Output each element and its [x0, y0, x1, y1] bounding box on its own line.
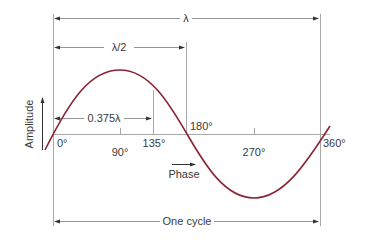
tick-label-135: 135°	[143, 137, 166, 149]
half-wavelength-label: λ/2	[112, 41, 127, 53]
one-cycle-label: One cycle	[163, 215, 212, 227]
tick-label-90: 90°	[112, 146, 129, 158]
tick-label-0: 0°	[57, 137, 68, 149]
phase-axis-label: Phase	[168, 168, 199, 180]
tick-label-180: 180°	[190, 120, 213, 132]
fraction-label: 0.375λ	[87, 112, 121, 124]
tick-label-360: 360°	[323, 137, 346, 149]
sine-wave-diagram: λ λ/2 0.375λ One cycle 0° 90° 135° 180° …	[0, 0, 367, 244]
wavelength-label: λ	[183, 12, 189, 24]
tick-label-270: 270°	[243, 146, 266, 158]
amplitude-axis-label: Amplitude	[23, 100, 35, 149]
